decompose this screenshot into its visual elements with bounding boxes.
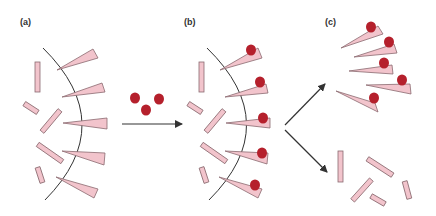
- spike-triangle: [366, 84, 411, 94]
- rod: [187, 102, 203, 115]
- ligand-dot: [246, 45, 256, 56]
- rod: [23, 102, 39, 115]
- ligand-dot: [366, 22, 376, 33]
- panel-b: [187, 45, 270, 201]
- rod: [338, 151, 343, 182]
- ligand-dot: [255, 77, 265, 88]
- arrow-b-to-c-bottom: [285, 130, 327, 172]
- rods: [23, 62, 64, 183]
- rod: [40, 109, 62, 134]
- ligand-dot: [130, 93, 140, 104]
- ligand-dot: [141, 105, 151, 116]
- rods: [187, 62, 228, 183]
- rod: [366, 157, 394, 178]
- ligand-dot: [154, 94, 164, 105]
- diagram-canvas: [0, 0, 436, 216]
- rod: [204, 109, 226, 134]
- rod: [199, 62, 204, 92]
- rod: [36, 142, 63, 163]
- ligand-dot: [379, 58, 389, 69]
- rod: [199, 167, 209, 184]
- rod: [35, 62, 40, 92]
- rod: [370, 194, 386, 206]
- spike-triangle: [56, 177, 98, 198]
- spike-triangle: [63, 118, 107, 129]
- free-ligands: [130, 93, 164, 116]
- rod: [402, 181, 411, 200]
- ligand-dot: [397, 75, 407, 86]
- spike-triangle: [341, 26, 383, 48]
- ligand-dot: [384, 37, 394, 48]
- spike-triangle: [57, 49, 98, 70]
- rod: [35, 167, 45, 184]
- ligand-dot: [369, 93, 379, 104]
- panel-c-scattered-rods: [338, 151, 412, 206]
- bound-ligands: [246, 45, 268, 191]
- panel-c-released-spikes: [336, 22, 411, 113]
- panel-a: [23, 48, 107, 200]
- ligand-dot: [257, 148, 267, 159]
- arrow-b-to-c-top: [285, 84, 325, 125]
- spike-triangle: [62, 151, 105, 165]
- rod: [200, 142, 227, 163]
- ligand-dot: [258, 113, 268, 124]
- spike-triangle: [62, 83, 105, 97]
- ligand-dot: [250, 180, 260, 191]
